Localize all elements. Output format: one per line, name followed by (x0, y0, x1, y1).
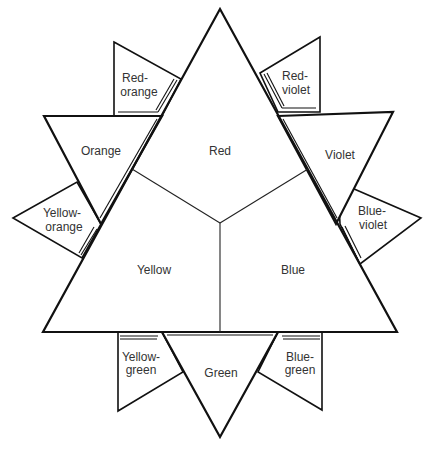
label-blue: Blue (281, 263, 305, 277)
secondary-green (162, 332, 278, 437)
label-red-orange-1: Red- (122, 71, 148, 85)
label-yellow-orange-2: orange (45, 220, 83, 234)
label-yellow-green-1: Yellow- (122, 350, 160, 364)
label-green: Green (204, 366, 237, 380)
divider-red-yellow (132, 169, 220, 223)
label-yellow-orange-1: Yellow- (43, 206, 81, 220)
label-blue-green-1: Blue- (286, 350, 314, 364)
label-yellow-green-2: green (126, 363, 157, 377)
label-red-orange-2: orange (120, 85, 158, 99)
divider-red-blue (220, 169, 308, 223)
cropped-caption-line (0, 442, 434, 449)
color-wheel-diagram: Red Yellow Blue Orange Violet Green Red-… (0, 0, 434, 449)
label-violet: Violet (325, 148, 355, 162)
label-red-violet-2: violet (282, 83, 311, 97)
label-blue-violet-1: Blue- (358, 204, 386, 218)
label-yellow: Yellow (137, 263, 172, 277)
label-blue-green-2: green (285, 363, 316, 377)
label-red-violet-1: Red- (282, 69, 308, 83)
label-orange: Orange (81, 144, 121, 158)
label-red: Red (209, 144, 231, 158)
label-blue-violet-2: violet (359, 218, 388, 232)
